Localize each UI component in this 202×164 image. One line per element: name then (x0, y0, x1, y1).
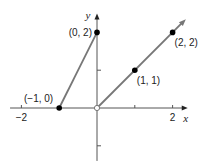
right-ray-line (97, 23, 182, 108)
data-point (132, 67, 138, 73)
x-tick-label: −2 (16, 112, 28, 123)
x-axis-label: x (182, 112, 188, 124)
data-point (94, 30, 100, 36)
piecewise-graph: −22xy (−1, 0)(0, 2)(1, 1)(2, 2) (0, 0, 202, 164)
data-point (56, 105, 62, 111)
x-tick-label: 2 (170, 112, 176, 123)
left-segment-line (59, 32, 97, 108)
point-label: (2, 2) (175, 37, 198, 48)
point-label: (1, 1) (137, 75, 160, 86)
point-label: (0, 2) (69, 27, 92, 38)
x-axis-arrow-icon (182, 106, 188, 111)
point-label: (−1, 0) (24, 93, 53, 104)
y-axis-arrow-icon (95, 14, 100, 20)
open-point (94, 105, 99, 110)
y-axis-label: y (85, 9, 91, 21)
points-layer (56, 30, 175, 111)
data-point (170, 30, 176, 36)
labels-layer: (−1, 0)(0, 2)(1, 1)(2, 2) (24, 27, 198, 104)
